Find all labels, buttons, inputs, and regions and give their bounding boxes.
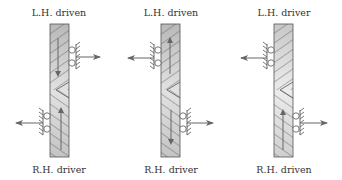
gear-3-bottom-label: R.H. driven bbox=[256, 164, 311, 175]
gear-3: L.H. driver R.H. driven bbox=[241, 7, 327, 175]
gear-3-bearing-left-icon bbox=[263, 42, 274, 69]
gear-2-bearing-right-icon bbox=[180, 108, 191, 135]
gear-1: L.H. driven R.H. driver bbox=[16, 7, 100, 175]
gear-2-top-label: L.H. driven bbox=[144, 7, 198, 18]
gear-thrust-diagram: L.H. driven R.H. driver L.H. driven bbox=[0, 0, 342, 180]
gear-3-top-label: L.H. driver bbox=[258, 7, 311, 18]
gear-1-bearing-left-icon bbox=[39, 108, 50, 135]
gear-2-bearing-left-icon bbox=[150, 42, 161, 69]
gear-1-bottom-label: R.H. driver bbox=[32, 164, 86, 175]
gear-1-bearing-right-icon bbox=[69, 42, 80, 69]
gear-3-bearing-right-icon bbox=[293, 108, 304, 135]
gear-2: L.H. driven R.H. driver bbox=[128, 7, 213, 175]
gear-1-helix-bottom bbox=[50, 90, 69, 157]
gear-1-helix-top bbox=[50, 24, 69, 90]
gear-2-bottom-label: R.H. driver bbox=[144, 164, 198, 175]
gear-1-top-label: L.H. driven bbox=[32, 7, 86, 18]
gear-3-helix-top bbox=[274, 24, 293, 90]
